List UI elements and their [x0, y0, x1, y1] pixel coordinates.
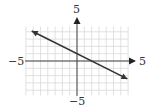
- x-axis-arrow-icon: [129, 58, 136, 65]
- x-min-label: −5: [8, 55, 24, 68]
- plotted-line: [32, 31, 128, 79]
- data-line: [32, 31, 128, 79]
- axes: [25, 17, 136, 96]
- y-max-label: 5: [73, 3, 80, 16]
- coordinate-plane: 5 −5 −5 5: [0, 0, 151, 110]
- y-axis-arrow-icon: [74, 17, 81, 24]
- x-max-label: 5: [139, 55, 146, 68]
- y-min-label: −5: [69, 95, 85, 108]
